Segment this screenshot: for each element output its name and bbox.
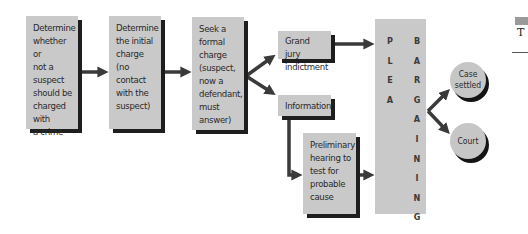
grand-jury-text: Grand jury indictment (285, 34, 327, 73)
plea-word: P L E A (385, 32, 395, 110)
arrow-step3-to-information (246, 76, 271, 92)
step-determine-whether-to-charge: Determine whether or not a suspect shoul… (26, 16, 78, 129)
preliminary-hearing-text: Preliminary hearing to test for probable… (310, 138, 352, 203)
step-determine-initial-charge: Determine the initial charge (no contact… (109, 16, 161, 129)
court-outcome: Court (450, 123, 486, 159)
information-box: Information (278, 95, 331, 116)
information-text: Information (285, 99, 327, 112)
grand-jury-indictment-box: Grand jury indictment (278, 31, 331, 59)
step-seek-formal-charge: Seek a formal charge (suspect, now a def… (192, 17, 244, 130)
step-2-text: Determine the initial charge (no contact… (116, 21, 157, 112)
arrow-step3-to-grand-jury (246, 58, 271, 76)
case-settled-outcome: Case settled (450, 62, 486, 98)
arrow-information-to-hearing (289, 119, 297, 175)
plea-bargaining-box: P L E A B A R G A I N I N G (375, 19, 426, 214)
step-3-text: Seek a formal charge (suspect, now a def… (199, 22, 240, 126)
case-settled-text: Case settled (455, 69, 481, 91)
arrow-plea-to-court (428, 111, 446, 130)
bargaining-word: B A R G A I N I N G (412, 32, 422, 228)
preliminary-hearing-box: Preliminary hearing to test for probable… (303, 133, 356, 214)
arrow-plea-to-case-settled (428, 93, 446, 111)
court-text: Court (457, 136, 478, 147)
step-1-text: Determine whether or not a suspect shoul… (33, 21, 74, 138)
flow-arrows (0, 0, 528, 234)
